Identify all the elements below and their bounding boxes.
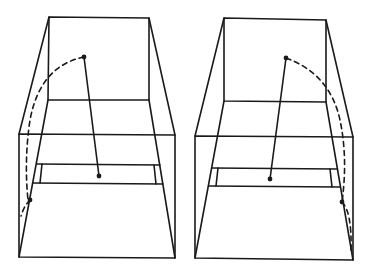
right-edge-bottom-right: [326, 102, 353, 260]
left-edge-bottom-left: [19, 100, 48, 257]
right-panel: [195, 18, 353, 260]
left-back-face: [48, 17, 149, 100]
right-edge-bottom-left: [195, 101, 224, 258]
left-strip-bottom: [33, 183, 163, 184]
right-strip-bottom: [209, 186, 340, 187]
right-edge-top-left: [195, 18, 224, 136]
right-top-dot: [284, 56, 289, 61]
left-front-face: [19, 134, 175, 258]
left-strip-top: [37, 164, 160, 165]
left-strip-left-tick: [40, 164, 42, 183]
perspective-diagram: [0, 0, 373, 270]
right-strip-right-tick: [330, 169, 332, 187]
left-solid-segment: [84, 57, 99, 176]
left-bottom-dot: [97, 174, 102, 179]
right-solid-segment: [270, 58, 286, 179]
right-arc-end-dot: [340, 200, 345, 205]
left-strip-right-tick: [154, 165, 156, 184]
left-dots: [28, 55, 102, 203]
diagram-canvas: [0, 0, 373, 270]
left-top-dot: [82, 55, 87, 60]
left-panel: [19, 17, 175, 258]
left-edge-bottom-right: [149, 100, 175, 258]
left-arc-end-dot: [28, 198, 33, 203]
right-strip-top: [212, 168, 337, 169]
right-dots: [268, 56, 345, 205]
right-dashed-arc: [286, 58, 345, 202]
left-dashed-arc: [26, 57, 84, 200]
left-edge-top-right: [149, 18, 175, 135]
right-back-face: [224, 18, 326, 102]
right-strip-left-tick: [216, 168, 218, 186]
right-bottom-dot: [268, 177, 273, 182]
